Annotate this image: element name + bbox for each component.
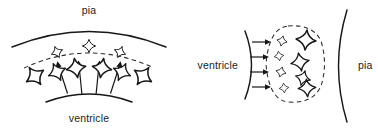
cell [49,44,65,60]
cell [82,39,95,52]
right-arrow-4 [252,84,271,89]
cell [279,83,290,94]
cell [91,57,114,80]
cell [275,66,288,79]
right-arrow-3 [250,69,269,74]
cell [274,51,285,62]
cell [129,62,157,90]
cell [110,60,134,84]
cell [289,51,310,72]
cell [65,57,88,80]
right-arrow-1 [252,39,271,44]
right-cell-group-large [289,29,317,97]
left-ventricle-label: ventricle [69,112,109,124]
right-ventricle-arc [245,31,252,99]
left-cell-group-lower [21,57,157,91]
figure-root: pia ventricle [0,0,378,132]
left-panel: pia ventricle [12,4,166,124]
left-ventricle-arc [46,94,132,102]
left-cell-group-upper [49,39,128,59]
right-ventricle-label: ventricle [198,59,238,71]
cell [21,62,49,90]
right-arrow-group [250,39,271,89]
cell [276,35,288,47]
left-arrow-group [55,61,123,95]
migration-diagram: pia ventricle [0,0,378,132]
right-cell-group-small [274,35,290,93]
left-migration-band-arc [24,53,154,68]
right-panel: ventricle pia [198,10,373,122]
left-pia-label: pia [82,4,96,16]
right-pia-arc [339,10,348,122]
right-pia-label: pia [358,59,372,71]
